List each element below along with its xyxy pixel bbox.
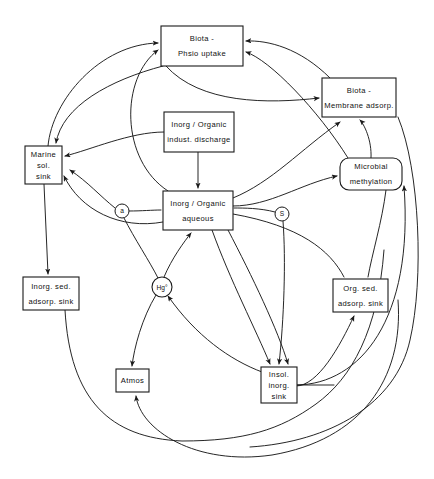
- node-shape-biota-physio-uptake: [161, 26, 243, 66]
- node-label-inorg-organic-aqueous-line-1: aqueous: [182, 214, 214, 223]
- edge-edge-marker-s-to-aqueous: [234, 208, 275, 212]
- node-label-inorg-organic-indust-discharge-line-1: indust. discharge: [167, 135, 230, 144]
- edge-edge-aqueous-to-membrane: [233, 122, 340, 198]
- node-inorg-organic-indust-discharge[interactable]: Inorg / Organicindust. discharge: [164, 112, 234, 152]
- marker-label-marker-a: a: [120, 207, 124, 214]
- edge-edge-marine-to-inorg-sed: [44, 184, 48, 274]
- node-label-inorg-sed-adsorp-sink-line-1: adsorp. sink: [28, 297, 73, 306]
- node-label-biota-membrane-adsorp-line-1: Membrane adsorp.: [324, 101, 393, 110]
- edge-edge-hg-to-aqueous: [164, 233, 191, 277]
- node-label-marine-sol-sink-line-1: sol.: [37, 161, 50, 170]
- node-microbial-methylation[interactable]: Microbialmethylation: [340, 158, 402, 190]
- edge-edge-aqueous-to-marine-lower: [64, 176, 163, 224]
- node-label-atmos-line-0: Atmos: [121, 376, 144, 385]
- node-shape-inorg-organic-aqueous: [163, 191, 233, 230]
- edge-edge-insol-to-org-sed: [296, 316, 354, 386]
- edge-edge-aqueous-to-physio-left: [131, 50, 168, 191]
- node-label-biota-membrane-adsorp-line-0: Biota -: [347, 86, 372, 95]
- node-label-insol-inorg-sink-line-0: Insol.: [269, 370, 289, 379]
- edge-edge-marker-a-to-aqueous: [129, 210, 161, 211]
- edge-edge-insol-to-hg: [168, 296, 262, 372]
- edge-edge-microbial-to-org-sed: [368, 190, 386, 277]
- node-inorg-sed-adsorp-sink[interactable]: Inorg. sed.adsorp. sink: [23, 277, 79, 310]
- diagram-canvas: Biota -Phsio uptakeBiota -Membrane adsor…: [0, 0, 434, 479]
- node-label-inorg-organic-aqueous-line-0: Inorg / Organic: [170, 199, 225, 208]
- node-marker-a[interactable]: a: [115, 204, 129, 218]
- edge-edge-aqueous-to-marker-a: [70, 170, 115, 208]
- node-biota-membrane-adsorp[interactable]: Biota -Membrane adsorp.: [322, 78, 396, 117]
- node-label-org-sed-adsorp-sink-line-0: Org. sed.: [343, 284, 377, 293]
- diagram-root: Biota -Phsio uptakeBiota -Membrane adsor…: [0, 0, 434, 479]
- node-hg-elemental[interactable]: Hg°: [152, 277, 172, 297]
- node-inorg-organic-aqueous[interactable]: Inorg / Organicaqueous: [163, 191, 233, 230]
- edge-edge-hg-to-atmos: [132, 295, 156, 366]
- node-label-org-sed-adsorp-sink-line-1: adsorp. sink: [338, 299, 383, 308]
- node-label-insol-inorg-sink-line-1: inorg.: [268, 381, 289, 390]
- node-label-marine-sol-sink-line-2: sink: [36, 172, 51, 181]
- edge-edge-marker-a-down: [124, 218, 158, 278]
- edge-edge-aqueous-to-insol-b: [228, 230, 288, 364]
- marker-label-marker-s: S: [280, 210, 285, 217]
- edge-edge-marker-s-down: [279, 221, 284, 364]
- node-label-marine-sol-sink-line-0: Marine: [31, 150, 56, 159]
- node-shape-inorg-organic-indust-discharge: [164, 112, 234, 152]
- edge-edge-marine-to-physio: [48, 43, 158, 146]
- edge-edge-membrane-to-physio: [246, 41, 330, 78]
- edge-edge-physio-to-marine: [56, 66, 163, 143]
- node-insol-inorg-sink[interactable]: Insol.inorg.sink: [261, 367, 297, 403]
- edge-edge-discharge-to-marine: [65, 132, 164, 156]
- edge-edge-physio-to-membrane: [166, 66, 319, 101]
- node-label-biota-physio-uptake-line-0: Biota -: [190, 34, 215, 43]
- node-marine-sol-sink[interactable]: Marinesol.sink: [25, 146, 62, 184]
- node-marker-s[interactable]: S: [275, 207, 289, 221]
- node-label-biota-physio-uptake-line-1: Phsio uptake: [178, 49, 226, 58]
- node-shape-biota-membrane-adsorp: [322, 78, 396, 117]
- node-label-hg-elemental-line-0: Hg°: [156, 284, 167, 292]
- node-label-microbial-methylation-line-0: Microbial: [354, 162, 388, 171]
- node-atmos[interactable]: Atmos: [116, 369, 149, 392]
- node-label-inorg-organic-indust-discharge-line-0: Inorg / Organic: [171, 120, 226, 129]
- node-label-insol-inorg-sink-line-2: sink: [272, 392, 287, 401]
- node-label-microbial-methylation-line-1: methylation: [350, 177, 393, 186]
- edge-edge-right-loop-to-org-sed: [233, 214, 344, 277]
- node-label-inorg-sed-adsorp-sink-line-0: Inorg. sed.: [31, 282, 71, 291]
- node-org-sed-adsorp-sink[interactable]: Org. sed.adsorp. sink: [333, 279, 388, 312]
- edge-edge-microbial-to-membrane: [360, 120, 371, 158]
- node-biota-physio-uptake[interactable]: Biota -Phsio uptake: [161, 26, 243, 66]
- nodes-layer: Biota -Phsio uptakeBiota -Membrane adsor…: [23, 26, 402, 403]
